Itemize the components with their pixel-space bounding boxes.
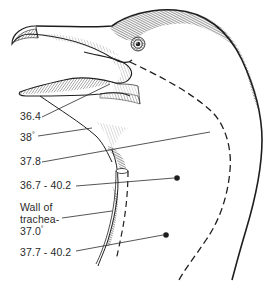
label-deep-neck-upper-temp: 36.7 - 40.2: [20, 179, 71, 191]
leader-trachea: [62, 211, 112, 218]
trachea-label-line-1: Wall of: [20, 201, 59, 213]
label-deep-neck-lower-temp: 37.7 - 40.2: [20, 246, 71, 258]
leader-neck-surface: [42, 132, 210, 162]
label-neck-surface-temp: 37.8: [20, 155, 41, 167]
trachea-label-line-2: trachea-: [20, 213, 59, 225]
label-mouth-temp: 36.4: [20, 110, 41, 122]
trachea-label-line-3: 37.0°: [20, 225, 59, 237]
degree-symbol: °: [32, 131, 35, 138]
internal-dashed-outline: [130, 62, 230, 282]
leader-throat-skin: [38, 128, 92, 136]
label-trachea-wall: Wall of trachea- 37.0°: [20, 201, 59, 237]
degree-symbol: °: [41, 225, 44, 232]
eye: [131, 37, 145, 51]
probe-dot-lower: [163, 232, 169, 238]
leader-deep-upper: [76, 178, 174, 186]
probe-dot-upper: [174, 175, 180, 181]
probe-markers: [163, 175, 180, 238]
leader-deep-lower: [76, 235, 163, 251]
neck-front: [98, 146, 126, 266]
label-throat-skin-temp: 38°: [20, 131, 35, 143]
